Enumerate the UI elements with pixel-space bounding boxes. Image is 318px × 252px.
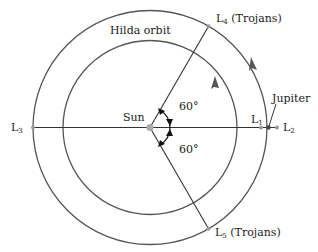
angle-arrowhead-lower-start	[166, 129, 173, 136]
jupiter-direction-arrow-icon	[249, 57, 257, 71]
l3-label: L3	[11, 121, 23, 135]
l5-label: L5 (Trojans)	[215, 226, 281, 240]
l4-label: L4 (Trojans)	[216, 12, 282, 26]
l3-point	[31, 126, 35, 130]
lagrange-diagram: Hilda orbit Sun Jupiter 60° 60° L1 L2 L3…	[0, 0, 318, 252]
hilda-direction-arrow-icon	[211, 76, 219, 89]
jupiter-point	[266, 125, 270, 129]
l4-point	[207, 24, 211, 28]
l2-point	[275, 126, 279, 130]
angle-upper-label: 60°	[179, 100, 199, 113]
sun-label: Sun	[123, 111, 145, 124]
sun-point	[147, 124, 154, 131]
angle-arrowhead-upper-end	[166, 119, 173, 126]
l1-label: L1	[251, 113, 263, 127]
angle-arrowhead-lower-end	[158, 140, 165, 147]
jupiter-leader-line	[269, 104, 276, 126]
l5-point	[207, 227, 211, 231]
hilda-orbit-label: Hilda orbit	[110, 24, 171, 37]
jupiter-label: Jupiter	[271, 92, 311, 105]
angle-arrowhead-upper-start	[158, 108, 165, 115]
l2-label: L2	[283, 121, 295, 135]
angle-lower-label: 60°	[179, 143, 199, 156]
